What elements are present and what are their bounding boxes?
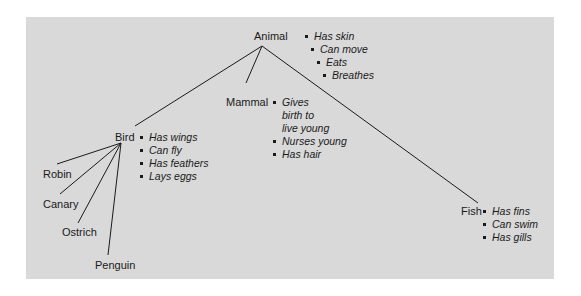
link-bird-penguin — [108, 143, 121, 255]
property-item: Can swim — [483, 218, 538, 231]
mammal-properties: Gives birth to live young Nurses young H… — [273, 96, 347, 161]
node-fish: Fish — [461, 205, 482, 218]
fish-properties: Has fins Can swim Has gills — [483, 205, 538, 244]
property-item: Lays eggs — [140, 170, 209, 183]
property-item: Has fins — [483, 205, 538, 218]
link-animal-bird — [135, 46, 262, 126]
property-item: Can move — [311, 43, 374, 56]
bird-properties: Has wings Can fly Has feathers Lays eggs — [140, 131, 209, 183]
node-ostrich: Ostrich — [62, 226, 97, 239]
node-animal: Animal — [254, 30, 288, 43]
property-item: Has skin — [305, 30, 374, 43]
property-item-continued: birth to — [273, 109, 347, 122]
property-item: Has gills — [483, 231, 538, 244]
animal-properties: Has skin Can move Eats Breathes — [305, 30, 374, 82]
property-item: Nurses young — [273, 135, 347, 148]
property-item: Can fly — [140, 144, 209, 157]
property-item: Has wings — [140, 131, 209, 144]
property-item: Gives — [273, 96, 347, 109]
property-item: Has feathers — [140, 157, 209, 170]
property-item: Breathes — [323, 69, 374, 82]
node-mammal: Mammal — [226, 96, 268, 109]
node-canary: Canary — [43, 198, 78, 211]
node-robin: Robin — [43, 168, 72, 181]
property-item: Has hair — [273, 148, 347, 161]
node-bird: Bird — [115, 131, 135, 144]
property-item: Eats — [317, 56, 374, 69]
property-item-continued: live young — [273, 122, 347, 135]
node-penguin: Penguin — [95, 259, 135, 272]
